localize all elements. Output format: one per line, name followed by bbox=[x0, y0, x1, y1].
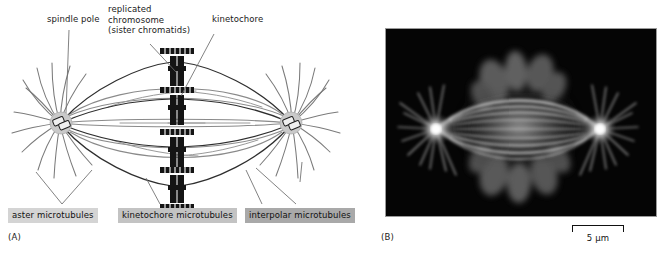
leader-aster-left bbox=[36, 172, 62, 204]
panel-letter-a: (A) bbox=[8, 232, 21, 242]
callout-kinetochore: kinetochore bbox=[212, 14, 263, 25]
leader-impt-c bbox=[300, 162, 302, 182]
scale-bar-rule bbox=[572, 225, 624, 232]
replicated-chromosome bbox=[160, 167, 194, 210]
kinetochore-plate bbox=[160, 167, 194, 173]
micrograph-svg bbox=[386, 29, 656, 216]
spindle-pole-left bbox=[50, 112, 72, 134]
scale-bar: 5 µm bbox=[569, 225, 627, 244]
figure-mitotic-spindle: spindle pole replicated chromosome (sist… bbox=[0, 0, 666, 258]
kinetochore-plate bbox=[160, 129, 194, 135]
panel-b-micrograph: 5 µm (B) bbox=[370, 0, 666, 258]
leader-impt-b bbox=[256, 168, 296, 204]
micrograph-image bbox=[385, 28, 657, 217]
leader-impt-a bbox=[246, 170, 262, 204]
label-interpolar-microtubules: interpolar microtubules bbox=[245, 208, 355, 223]
kinetochore-plate bbox=[160, 48, 194, 54]
label-kinetochore-microtubules: kinetochore microtubules bbox=[118, 208, 237, 223]
panel-a-diagram: spindle pole replicated chromosome (sist… bbox=[0, 0, 370, 258]
spindle-pole-right bbox=[280, 112, 302, 134]
kinetochore-plate bbox=[160, 87, 194, 93]
leader-kinetochore bbox=[181, 34, 214, 96]
scale-bar-label: 5 µm bbox=[569, 233, 627, 244]
leader-aster-right bbox=[62, 170, 92, 204]
panel-letter-b: (B) bbox=[381, 232, 394, 242]
callout-replicated-chromosome: replicated chromosome (sister chromatids… bbox=[108, 4, 190, 36]
callout-spindle-pole: spindle pole bbox=[47, 14, 100, 25]
callout-leader-lines-top bbox=[66, 30, 214, 113]
label-aster-microtubules: aster microtubules bbox=[8, 208, 98, 223]
